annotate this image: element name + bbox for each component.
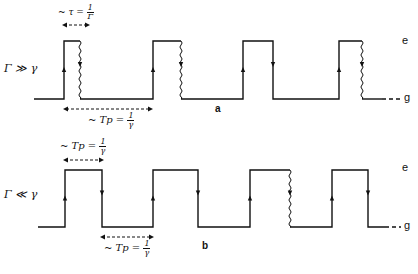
level-trace bbox=[38, 170, 290, 227]
level-trace bbox=[80, 41, 181, 99]
tp-fraction-a: 1γ bbox=[127, 112, 134, 129]
emission-arrow-icon bbox=[179, 62, 183, 67]
annotation-arrows bbox=[64, 25, 152, 237]
tp-prefix-b-bottom: ~ Tp = bbox=[104, 242, 140, 253]
tp-den-b-bottom: γ bbox=[143, 249, 150, 257]
emission-arrow-icon bbox=[288, 191, 292, 196]
tp-fraction-b-top: 1γ bbox=[99, 138, 106, 155]
panel-label-b: b bbox=[202, 240, 208, 251]
tp-den-a: γ bbox=[127, 121, 134, 129]
level-trace bbox=[290, 170, 385, 227]
tp-prefix-a: ~ Tp = bbox=[88, 114, 124, 125]
panel-label-a: a bbox=[215, 103, 221, 114]
emission-arrow-icon bbox=[360, 62, 364, 67]
tp-den-b-top: γ bbox=[99, 147, 106, 155]
emission-arrow-icon bbox=[78, 62, 82, 67]
spontaneous-emission-line bbox=[289, 170, 291, 227]
condition-label-b: Γ ≪ γ bbox=[4, 188, 37, 201]
tp-prefix-b-top: ~ Tp = bbox=[60, 140, 96, 151]
level-e-label-b: e bbox=[402, 161, 408, 173]
tp-fraction-b-bottom: 1γ bbox=[143, 240, 150, 257]
tau-fraction: 1Γ bbox=[87, 4, 94, 21]
trace-a bbox=[34, 41, 401, 99]
trace-b bbox=[38, 170, 401, 227]
tau-annotation: ~ τ = 1Γ bbox=[58, 4, 94, 21]
level-g-label-b: g bbox=[404, 219, 410, 231]
tp-annotation-b-bottom: ~ Tp = 1γ bbox=[104, 240, 150, 257]
diagram-canvas bbox=[0, 0, 418, 274]
tp-annotation-b-top: ~ Tp = 1γ bbox=[60, 138, 106, 155]
spontaneous-emission-line bbox=[79, 41, 81, 99]
condition-label-a: Γ ≫ γ bbox=[4, 62, 37, 75]
level-e-label-a: e bbox=[402, 34, 408, 46]
level-g-label-a: g bbox=[404, 91, 410, 103]
tau-den: Γ bbox=[87, 13, 94, 21]
level-trace bbox=[181, 41, 362, 99]
level-trace bbox=[34, 41, 80, 99]
spontaneous-emission-line bbox=[180, 41, 182, 99]
tau-prefix: ~ τ = bbox=[58, 7, 84, 17]
spontaneous-emission-line bbox=[361, 41, 363, 99]
annotation-arrowheads bbox=[62, 23, 154, 240]
tp-annotation-a: ~ Tp = 1γ bbox=[88, 112, 134, 129]
